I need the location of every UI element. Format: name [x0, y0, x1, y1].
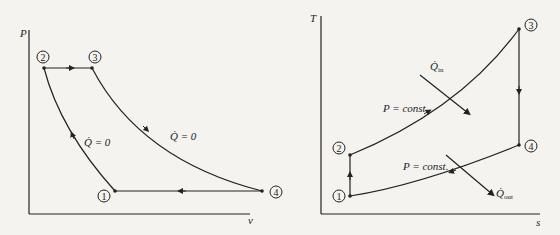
t-axis-label: T [310, 12, 317, 24]
state-1-marker: 1 [98, 190, 110, 202]
brayton-cycle-diagrams: P v 2 3 1 4 Q̇ = 0 Q̇ = 0 T s [0, 0, 560, 235]
v-axis-label: v [248, 214, 253, 226]
process-2-3 [350, 29, 519, 155]
state-2-marker: 2 [333, 142, 345, 154]
s-axis-label: s [536, 216, 540, 228]
q-in-label: Q̇in [430, 60, 444, 74]
ts-diagram: T s 1 2 3 4 P = const. P = const. Q̇in Q… [310, 12, 540, 228]
svg-text:3: 3 [93, 52, 98, 63]
svg-text:4: 4 [529, 141, 534, 152]
svg-text:3: 3 [529, 20, 534, 31]
process-1-2 [44, 68, 115, 191]
state-1-marker: 1 [333, 190, 345, 202]
label-heat-rejection-const-p: P = const. [402, 160, 448, 172]
svg-text:2: 2 [337, 143, 342, 154]
state-2-marker: 2 [37, 51, 49, 63]
state-4-marker: 4 [270, 186, 282, 198]
svg-text:4: 4 [274, 187, 279, 198]
state-3-marker: 3 [525, 19, 537, 31]
arrow-3-4 [143, 126, 147, 130]
q-out-label: Q̇out [496, 187, 513, 201]
state-4-marker: 4 [525, 140, 537, 152]
p-axis-label: P [19, 27, 27, 39]
svg-text:1: 1 [337, 191, 342, 202]
svg-text:1: 1 [102, 191, 107, 202]
label-compression-adiabatic: Q̇ = 0 [84, 136, 111, 148]
label-heat-addition-const-p: P = const. [382, 102, 428, 114]
q-out-arrow [446, 155, 492, 194]
label-expansion-adiabatic: Q̇ = 0 [170, 130, 197, 142]
state-3-marker: 3 [89, 51, 101, 63]
svg-text:2: 2 [41, 52, 46, 63]
pv-diagram: P v 2 3 1 4 Q̇ = 0 Q̇ = 0 [19, 27, 282, 226]
